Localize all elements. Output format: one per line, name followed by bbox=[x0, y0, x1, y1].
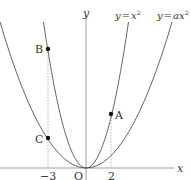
tick-label-neg3: −3 bbox=[40, 170, 56, 180]
point-B bbox=[46, 47, 50, 51]
point-C bbox=[46, 136, 50, 140]
x-axis-label: x bbox=[177, 162, 184, 175]
point-A bbox=[109, 112, 113, 116]
label-A: A bbox=[114, 109, 124, 122]
label-B: B bbox=[35, 43, 43, 56]
parabola-diagram: B C A y x O −3 2 y=x2 y=ax2 bbox=[0, 0, 191, 180]
origin-label: O bbox=[74, 170, 83, 180]
curve-label-ax-squared: y=ax2 bbox=[156, 9, 189, 21]
y-axis-label: y bbox=[82, 7, 90, 20]
label-C: C bbox=[35, 133, 43, 146]
tick-label-2: 2 bbox=[108, 170, 115, 180]
curve-label-x-squared: y=x2 bbox=[114, 9, 141, 21]
